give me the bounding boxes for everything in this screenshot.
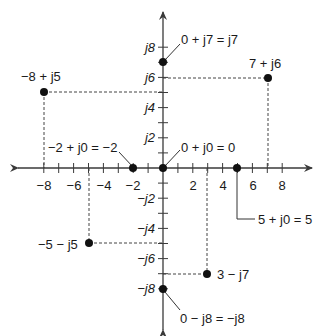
complex-plane-diagram: −8 −6 −4 −2 2 4 6 8 j8 j6 j4 j2 −j2 −j4 … [0, 0, 324, 336]
y-tick-label: j2 [143, 130, 156, 145]
x-tick-label: 2 [189, 178, 196, 193]
x-tick-label: −4 [97, 178, 112, 193]
point-neg5-negj5 [85, 239, 93, 247]
x-tick-label: −6 [67, 178, 82, 193]
label-neg2: −2 + j0 = −2 [48, 140, 117, 155]
leader-negj8 [165, 292, 180, 310]
real-axis-labels: −8 −6 −4 −2 2 4 6 8 [37, 178, 286, 193]
leader-5 [237, 168, 255, 219]
label-neg8-j5: −8 + j5 [21, 69, 61, 84]
point-neg8-j5 [40, 88, 48, 96]
y-tick-label: j6 [143, 70, 156, 85]
leader-j7 [165, 44, 180, 60]
point-negj8 [159, 285, 167, 293]
y-tick-label: j4 [143, 100, 155, 115]
x-tick-label: 8 [278, 178, 285, 193]
label-7-j6: 7 + j6 [249, 56, 281, 71]
label-negj8: 0 − j8 = −j8 [180, 311, 245, 326]
label-j7: 0 + j7 = j7 [181, 32, 238, 47]
label-origin: 0 + j0 = 0 [181, 140, 235, 155]
point-7-j6 [264, 74, 272, 82]
point-j7 [159, 58, 167, 66]
point-5 [233, 164, 241, 172]
point-origin [159, 164, 167, 172]
y-tick-label: −j2 [137, 191, 155, 206]
x-tick-label: 4 [219, 178, 226, 193]
y-tick-label: −j4 [137, 221, 155, 236]
x-tick-label: 6 [249, 178, 256, 193]
label-neg5-negj5: −5 − j5 [38, 237, 78, 252]
x-tick-label: −8 [37, 178, 52, 193]
y-tick-label: j8 [143, 40, 156, 55]
label-3-negj7: 3 − j7 [217, 267, 249, 282]
y-tick-label: −j6 [137, 251, 155, 266]
point-neg2 [129, 164, 137, 172]
label-5: 5 + j0 = 5 [258, 212, 312, 227]
point-3-negj7 [203, 270, 211, 278]
y-tick-label: −j8 [137, 281, 155, 296]
